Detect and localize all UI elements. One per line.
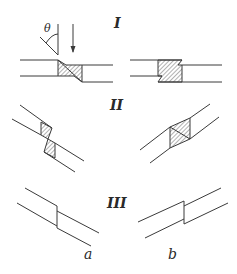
- column-label-a: a: [84, 246, 92, 262]
- row3-col-a-joint: [17, 188, 99, 246]
- joint-diagram: I II III a b θ: [0, 0, 237, 274]
- row3-col-b-joint: [138, 188, 228, 238]
- row-label-III: III: [106, 195, 127, 211]
- angle-arc: [46, 34, 58, 43]
- down-arrow-icon: [71, 46, 76, 53]
- column-label-b: b: [168, 246, 177, 262]
- row2-col-b-joint: [140, 104, 219, 163]
- row1-col-b-joint: [130, 60, 222, 82]
- theta-label: θ: [44, 22, 51, 35]
- row2-col-a-joint: [12, 105, 84, 172]
- row-label-I: I: [113, 15, 121, 31]
- shaded-joint-region: [158, 60, 182, 82]
- row-label-II: II: [109, 97, 124, 113]
- row1-col-a-joint: θ: [20, 22, 113, 82]
